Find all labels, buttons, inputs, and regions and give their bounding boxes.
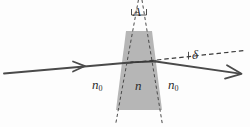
prism-deviation-figure: A δ n0 n n0 xyxy=(0,0,250,127)
index-label-outside-left: n0 xyxy=(92,78,103,93)
deviation-angle-label: δ xyxy=(192,48,198,61)
index-label-outside-right: n0 xyxy=(168,78,179,93)
apex-angle-label: A xyxy=(133,5,141,18)
prism-body-shape xyxy=(116,31,162,110)
internal-ray xyxy=(131,61,156,62)
index-label-outside-left-subscript: 0 xyxy=(99,84,103,93)
index-label-prism: n xyxy=(135,79,142,92)
incident-ray xyxy=(4,62,133,73)
figure-canvas xyxy=(0,0,250,127)
index-label-outside-right-subscript: 0 xyxy=(175,84,179,93)
exit-ray xyxy=(154,61,240,73)
